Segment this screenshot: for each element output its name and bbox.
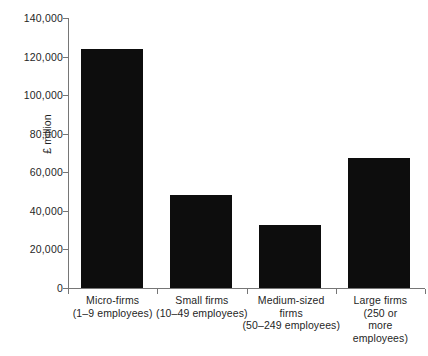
category-label-line: (1–9 employees) bbox=[64, 307, 161, 320]
y-axis-tick-label: 120,000 bbox=[0, 51, 63, 62]
y-axis-tick-label: 140,000 bbox=[0, 13, 63, 24]
y-axis-tick-label: 20,000 bbox=[0, 244, 63, 255]
category-label-line: employees) bbox=[332, 332, 428, 345]
y-axis-tick-label: 40,000 bbox=[0, 205, 63, 216]
y-axis-tick-label: 60,000 bbox=[0, 167, 63, 178]
y-axis-tick-label: 80,000 bbox=[0, 128, 63, 139]
category-label-line: (250 or bbox=[332, 307, 428, 320]
category-label-line: firms bbox=[243, 307, 340, 320]
bar bbox=[348, 158, 410, 288]
x-axis-category-label: Micro-firms(1–9 employees) bbox=[64, 294, 161, 319]
category-label-line: more bbox=[332, 319, 428, 332]
y-axis-tick-label: 0 bbox=[0, 283, 63, 294]
y-axis-tick-label: 100,000 bbox=[0, 90, 63, 101]
category-label-line: (10–49 employees) bbox=[153, 307, 250, 320]
y-axis-tick-labels: 140,000120,000100,00080,00060,00040,0002… bbox=[0, 0, 63, 356]
bar bbox=[170, 195, 232, 288]
bar bbox=[81, 49, 143, 288]
category-label-line: Micro-firms bbox=[64, 294, 161, 307]
x-axis-category-labels: Micro-firms(1–9 employees)Small firms(10… bbox=[68, 294, 425, 356]
category-label-line: Large firms bbox=[332, 294, 428, 307]
bar bbox=[259, 225, 321, 288]
category-label-line: Medium-sized bbox=[243, 294, 340, 307]
x-axis-category-label: Small firms(10–49 employees) bbox=[153, 294, 250, 319]
category-label-line: Small firms bbox=[153, 294, 250, 307]
category-label-line: (50–249 employees) bbox=[243, 319, 340, 332]
bar-chart: £ million 140,000120,000100,00080,00060,… bbox=[0, 0, 428, 356]
x-axis-category-label: Large firms(250 ormoreemployees) bbox=[332, 294, 428, 344]
x-axis-category-label: Medium-sizedfirms(50–249 employees) bbox=[243, 294, 340, 332]
plot-area bbox=[68, 18, 425, 288]
